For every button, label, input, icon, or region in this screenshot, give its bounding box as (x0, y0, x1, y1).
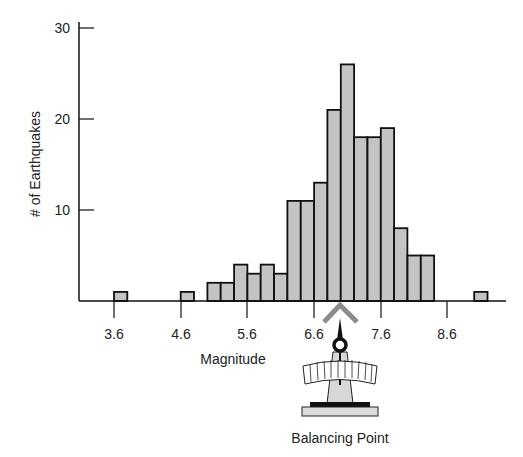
histogram-bar (207, 283, 220, 301)
y-tick-label: 10 (54, 202, 70, 218)
histogram-bar (234, 265, 247, 301)
x-tick-label: 8.6 (437, 326, 457, 342)
pivot-circle (334, 339, 346, 351)
histogram-bar (341, 64, 354, 301)
x-tick-label: 4.6 (171, 326, 191, 342)
histogram-bars (114, 64, 488, 301)
histogram-bar (394, 228, 407, 301)
balancing-point-label: Balancing Point (291, 430, 388, 446)
histogram-bar (114, 292, 127, 301)
histogram-bar (301, 201, 314, 301)
histogram-bar (327, 110, 340, 301)
histogram-bar (381, 128, 394, 301)
x-tick-label: 7.6 (371, 326, 391, 342)
x-tick-label: 5.6 (237, 326, 257, 342)
histogram-bar (474, 292, 487, 301)
base-bar (310, 402, 370, 407)
histogram-bar (408, 256, 421, 302)
y-axis-title: # of Earthquakes (27, 111, 43, 217)
histogram-bar (261, 265, 274, 301)
base-plate (302, 407, 378, 416)
y-tick-label: 20 (54, 111, 70, 127)
needle-icon (337, 318, 343, 340)
fulcrum-icon (324, 305, 357, 322)
x-axis-title: Magnitude (200, 351, 266, 367)
y-tick-label: 30 (54, 20, 70, 36)
histogram-bar (274, 274, 287, 301)
histogram-bar (314, 183, 327, 301)
histogram-bar (221, 283, 234, 301)
histogram-bar (354, 137, 367, 301)
x-tick-label: 3.6 (104, 326, 124, 342)
histogram-bar (287, 201, 300, 301)
histogram-chart: 10 20 30 3.6 4.6 5.6 6.6 7.6 8.6 # of Ea… (0, 0, 523, 457)
histogram-bar (368, 137, 381, 301)
histogram-bar (421, 256, 434, 302)
x-tick-label: 6.6 (304, 326, 324, 342)
histogram-bar (181, 292, 194, 301)
histogram-bar (247, 274, 260, 301)
balance-scale-icon (302, 305, 378, 416)
